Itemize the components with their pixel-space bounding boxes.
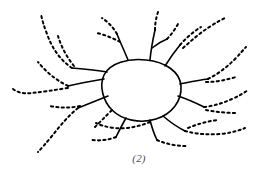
- figure-caption: (2): [0, 152, 278, 164]
- figure-container: (2): [0, 0, 278, 182]
